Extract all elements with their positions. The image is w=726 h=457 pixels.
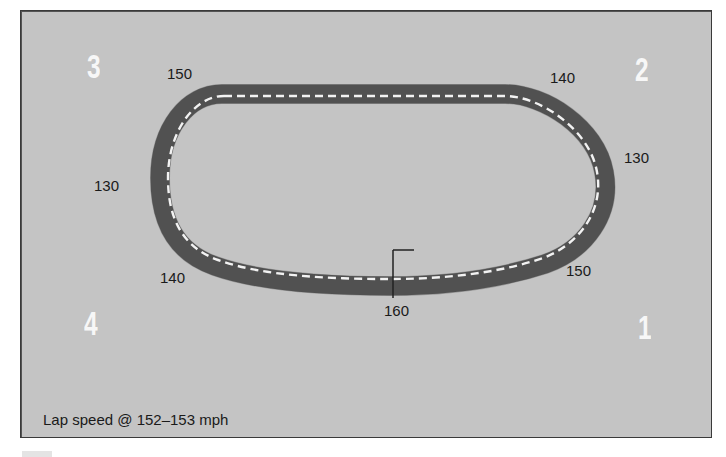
speed-label-top-left: 150 <box>167 66 192 81</box>
speed-label-bottom-left: 140 <box>160 270 185 285</box>
page-edge-mark <box>22 451 52 457</box>
lap-speed-caption: Lap speed @ 152–153 mph <box>43 412 228 427</box>
speed-label-right: 130 <box>624 150 649 165</box>
speed-label-top-right: 140 <box>550 70 575 85</box>
track-centerline <box>168 96 598 279</box>
turn-number-4: 4 <box>84 306 97 340</box>
turn-number-2: 2 <box>635 52 648 86</box>
track-edge <box>160 94 605 286</box>
turn-number-3: 3 <box>87 49 100 83</box>
speed-label-bottom-right: 150 <box>566 263 591 278</box>
oval-track <box>0 0 726 457</box>
speed-label-left: 130 <box>94 178 119 193</box>
speed-label-start-finish: 160 <box>384 303 409 318</box>
turn-number-1: 1 <box>638 310 651 344</box>
